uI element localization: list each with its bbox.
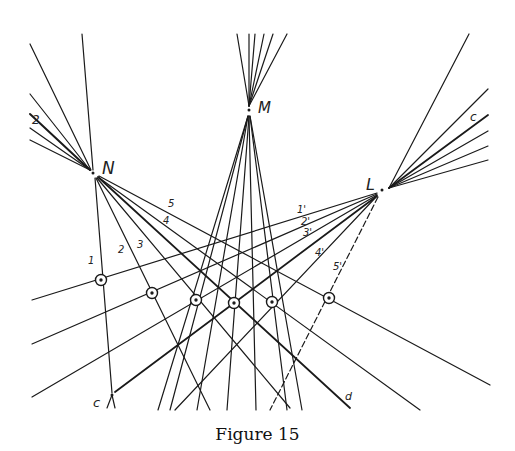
label-bottom-right: d <box>345 390 353 403</box>
m-upper-fan <box>237 34 287 106</box>
n-upper-fan <box>30 34 93 170</box>
ray-label-3p: 3' <box>303 227 312 238</box>
m-lower-fan <box>158 116 302 410</box>
ray-label-4: 4 <box>163 215 169 226</box>
point-label-n: N <box>102 158 115 178</box>
point-label-c: c <box>93 395 100 410</box>
ray-label-1: 1 <box>88 255 94 266</box>
point-label-l: L <box>366 175 375 194</box>
ray-label-5p: 5' <box>333 261 342 272</box>
ray-label-3: 3 <box>137 239 143 250</box>
ray-label-2p: 2' <box>301 216 310 227</box>
point-label-m: M <box>258 99 271 117</box>
ray-label-5: 5 <box>168 198 174 209</box>
ray-label-4p: 4' <box>315 247 324 258</box>
figure-caption: Figure 15 <box>0 424 515 444</box>
c-lines <box>107 395 115 408</box>
ray-label-2: 2 <box>118 244 124 255</box>
label-upper-right: c <box>470 110 477 124</box>
ray-label-1p: 1' <box>297 204 306 215</box>
label-upper-left: 2 <box>32 113 40 127</box>
perspective-construction-diagram: N M L c 1 2 3 4 5 1' 2' 3' 4' 5' 2 c d <box>0 0 515 451</box>
